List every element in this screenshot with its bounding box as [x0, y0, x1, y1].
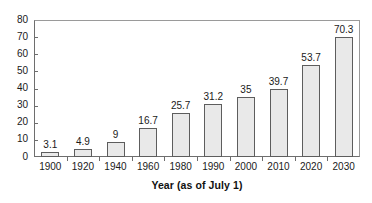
bar-chart-figure: 01020304050607080 3.14.9916.725.731.2353…	[0, 0, 372, 203]
x-tick-label: 2000	[230, 161, 263, 173]
y-tick-mark	[34, 37, 38, 38]
bar-value-label: 39.7	[262, 76, 295, 87]
bar	[237, 97, 255, 157]
y-tick-mark	[34, 89, 38, 90]
x-tick-mark	[327, 157, 328, 161]
x-tick-label: 1990	[197, 161, 230, 173]
y-tick-mark	[34, 54, 38, 55]
bar	[204, 104, 222, 157]
bar	[302, 65, 320, 157]
y-tick-mark	[34, 140, 38, 141]
bar	[41, 152, 59, 157]
bar-value-label: 53.7	[295, 52, 328, 63]
x-tick-mark	[295, 157, 296, 161]
bar	[335, 37, 353, 157]
bar	[107, 142, 125, 157]
y-tick-label: 70	[0, 31, 28, 42]
x-tick-label: 2010	[262, 161, 295, 173]
bar-value-label: 16.7	[132, 115, 165, 126]
y-tick-label: 80	[0, 14, 28, 25]
x-tick-label: 2030	[327, 161, 360, 173]
bar	[270, 89, 288, 157]
bar-value-label: 70.3	[327, 24, 360, 35]
x-tick-mark	[132, 157, 133, 161]
x-tick-label: 1920	[67, 161, 100, 173]
y-tick-label: 0	[0, 151, 28, 162]
bar-value-label: 4.9	[67, 136, 100, 147]
y-tick-label: 50	[0, 65, 28, 76]
bar	[172, 113, 190, 157]
x-tick-mark	[67, 157, 68, 161]
x-tick-mark	[230, 157, 231, 161]
x-tick-label: 1980	[164, 161, 197, 173]
bar	[74, 149, 92, 157]
x-axis-title: Year (as of July 1)	[34, 179, 360, 191]
x-tick-label: 1940	[99, 161, 132, 173]
bar-value-label: 31.2	[197, 91, 230, 102]
bar-value-label: 35	[230, 84, 263, 95]
bar-value-label: 3.1	[34, 139, 67, 150]
y-tick-label: 30	[0, 99, 28, 110]
y-tick-label: 20	[0, 116, 28, 127]
y-tick-label: 10	[0, 133, 28, 144]
y-tick-mark	[34, 123, 38, 124]
y-tick-label: 60	[0, 48, 28, 59]
x-tick-label: 1900	[34, 161, 67, 173]
x-tick-mark	[262, 157, 263, 161]
bar-value-label: 9	[99, 129, 132, 140]
y-tick-label: 40	[0, 82, 28, 93]
x-tick-mark	[164, 157, 165, 161]
y-axis: 01020304050607080	[0, 20, 28, 157]
x-tick-mark	[197, 157, 198, 161]
y-tick-mark	[34, 106, 38, 107]
x-tick-label: 2020	[295, 161, 328, 173]
x-tick-label: 1960	[132, 161, 165, 173]
bar	[139, 128, 157, 157]
bar-value-label: 25.7	[164, 100, 197, 111]
y-tick-mark	[34, 71, 38, 72]
x-tick-mark	[99, 157, 100, 161]
